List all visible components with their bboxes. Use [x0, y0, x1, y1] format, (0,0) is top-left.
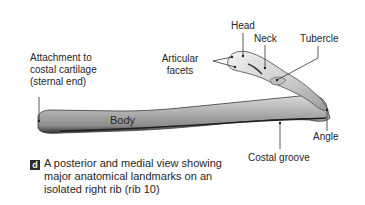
label-attachment: Attachment to costal cartilage (sternal … — [30, 52, 97, 88]
label-neck: Neck — [254, 33, 277, 45]
label-head: Head — [231, 20, 255, 32]
caption-line1: A posterior and medial view showing — [44, 157, 284, 170]
label-attachment-line1: Attachment to — [30, 52, 97, 64]
caption-line3: isolated right rib (rib 10) — [44, 183, 284, 196]
label-angle: Angle — [313, 131, 339, 143]
label-body: Body — [110, 114, 135, 126]
label-articular-line1: Articular — [150, 53, 210, 65]
panel-letter-badge: d — [30, 160, 40, 170]
label-articular-line2: facets — [150, 65, 210, 77]
figure-caption: A posterior and medial view showing majo… — [44, 157, 284, 196]
rib-body — [38, 95, 330, 133]
label-tubercle: Tubercle — [300, 33, 339, 45]
caption-line2: major anatomical landmarks on an — [44, 170, 284, 183]
label-attachment-line3: (sternal end) — [30, 76, 97, 88]
label-articular-facets: Articular facets — [150, 53, 210, 77]
label-attachment-line2: costal cartilage — [30, 64, 97, 76]
